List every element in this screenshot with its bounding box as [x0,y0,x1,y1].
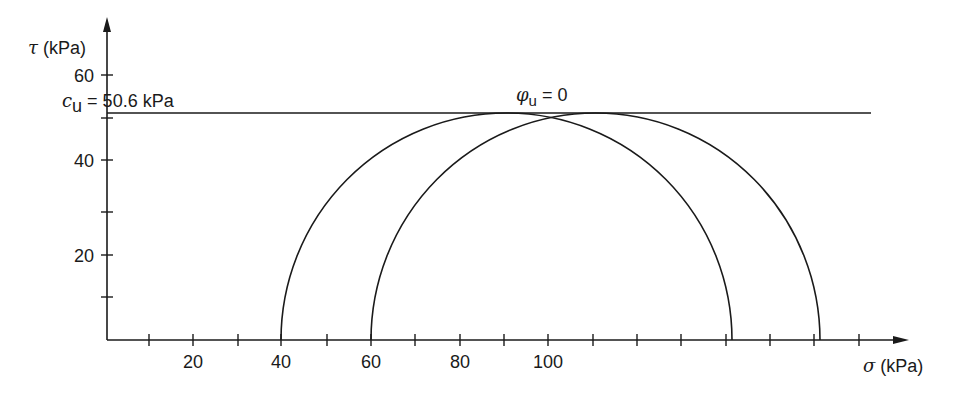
sigma-symbol: σ [863,355,876,376]
x-axis-unit: (kPa) [875,356,923,376]
y-axis-unit: (kPa) [38,38,86,58]
x-axis-title: σ (kPa) [863,355,923,376]
phi-value: = 0 [537,85,568,105]
mohr-circle-1 [281,113,732,340]
y-tick-label-40: 40 [74,151,94,171]
phi-symbol: φ [516,84,529,105]
cu-symbol: c [62,90,72,111]
x-axis-arrow-icon [893,336,909,344]
cu-subscript: u [72,96,82,116]
x-tick-label-40: 40 [271,352,291,372]
phi-annotation: φu = 0 [516,84,567,109]
x-tick-label-20: 20 [183,352,203,372]
x-tick-label-80: 80 [450,352,470,372]
mohr-circle-chart: 20 40 60 20 40 60 80 100 τ (kPa) σ (kPa)… [0,0,970,396]
y-tick-label-60: 60 [74,66,94,86]
mohr-circle-2 [371,113,820,340]
cu-annotation: cu = 50.6 kPa [62,90,175,116]
x-tick-label-100: 100 [533,352,563,372]
cu-value: = 50.6 kPa [82,91,175,111]
y-tick-label-20: 20 [74,246,94,266]
y-axis-arrow-icon [103,17,111,32]
x-tick-label-60: 60 [361,352,381,372]
phi-subscript: u [529,92,537,109]
y-axis-title: τ (kPa) [28,37,86,58]
